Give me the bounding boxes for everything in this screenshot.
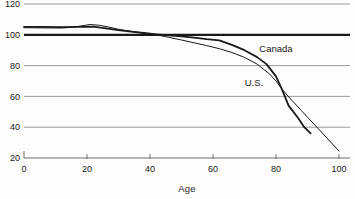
sex-ratio-by-age-chart: 12010080604020020406080100CanadaU.S. Age <box>0 0 355 199</box>
x-tick-label-100: 100 <box>331 164 346 174</box>
series-label-us: U.S. <box>245 77 263 88</box>
x-tick-label-20: 20 <box>82 164 92 174</box>
series-label-canada: Canada <box>259 43 293 54</box>
y-tick-label-40: 40 <box>10 122 20 132</box>
x-tick-label-80: 80 <box>271 164 281 174</box>
x-axis-title: Age <box>24 183 350 194</box>
x-tick-label-60: 60 <box>208 164 218 174</box>
y-tick-label-120: 120 <box>5 0 20 9</box>
y-tick-label-100: 100 <box>5 30 20 40</box>
x-tick-label-40: 40 <box>145 164 155 174</box>
y-tick-label-60: 60 <box>10 92 20 102</box>
x-tick-label-0: 0 <box>21 164 26 174</box>
y-tick-label-80: 80 <box>10 61 20 71</box>
chart-canvas: 12010080604020020406080100CanadaU.S. <box>0 0 355 199</box>
y-tick-label-20: 20 <box>10 153 20 163</box>
